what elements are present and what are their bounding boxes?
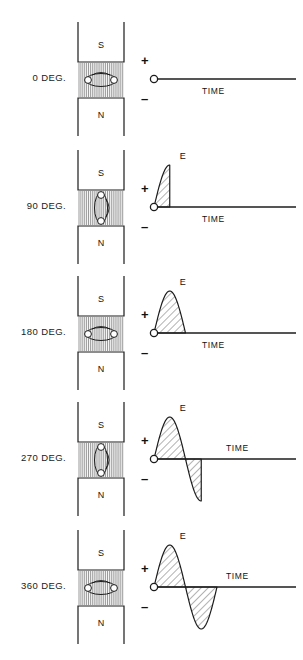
pole-south: S bbox=[78, 22, 124, 62]
waveform-plot-180: +–TIMEE bbox=[140, 274, 300, 392]
origin-marker bbox=[150, 455, 157, 462]
waveform-plot-0: +–TIME bbox=[140, 20, 300, 138]
phase-row-90: 90 DEG.SN+–TIMEE bbox=[0, 148, 303, 268]
pole-south: S bbox=[78, 276, 124, 316]
polarity-plus: + bbox=[141, 307, 149, 322]
phase-row-0: 0 DEG.SN+–TIME bbox=[0, 20, 303, 140]
time-axis-label: TIME bbox=[202, 340, 225, 350]
polarity-plus: + bbox=[141, 433, 149, 448]
svg-text:N: N bbox=[98, 490, 105, 500]
waveform-plot-270: +–TIMEE bbox=[140, 400, 300, 518]
phase-row-270: 270 DEG.SN+–TIMEE bbox=[0, 400, 303, 520]
magnet-assembly-0: SN bbox=[70, 20, 132, 138]
magnet-assembly-360: SN bbox=[70, 528, 132, 646]
degree-label-0: 0 DEG. bbox=[0, 72, 66, 83]
svg-text:S: S bbox=[98, 168, 104, 178]
phase-row-360: 360 DEG.SN+–TIMEE bbox=[0, 528, 303, 648]
svg-text:S: S bbox=[98, 40, 104, 50]
armature-coil bbox=[85, 581, 118, 595]
svg-text:N: N bbox=[98, 238, 105, 248]
emf-label: E bbox=[180, 403, 186, 413]
waveform-negative-lobe bbox=[186, 587, 218, 629]
magnet-assembly-90: SN bbox=[70, 148, 132, 266]
armature-coil bbox=[85, 73, 118, 87]
degree-label-360: 360 DEG. bbox=[0, 580, 66, 591]
magnet-assembly-270: SN bbox=[70, 400, 132, 518]
svg-text:N: N bbox=[98, 364, 105, 374]
time-axis-label: TIME bbox=[226, 443, 249, 453]
svg-text:S: S bbox=[98, 548, 104, 558]
polarity-plus: + bbox=[141, 181, 149, 196]
polarity-minus: – bbox=[141, 471, 148, 486]
polarity-minus: – bbox=[141, 345, 148, 360]
origin-marker bbox=[150, 329, 157, 336]
armature-coil bbox=[85, 327, 118, 341]
pole-south: S bbox=[78, 530, 124, 570]
svg-text:N: N bbox=[98, 110, 105, 120]
svg-text:S: S bbox=[98, 420, 104, 430]
polarity-plus: + bbox=[141, 53, 149, 68]
emf-label: E bbox=[180, 151, 186, 161]
origin-marker bbox=[150, 75, 157, 82]
polarity-plus: + bbox=[141, 561, 149, 576]
waveform-plot-90: +–TIMEE bbox=[140, 148, 300, 266]
ac-generation-diagram: 0 DEG.SN+–TIME90 DEG.SN+–TIMEE180 DEG.SN… bbox=[0, 0, 303, 660]
waveform-negative-lobe bbox=[186, 459, 202, 501]
time-axis-label: TIME bbox=[226, 571, 249, 581]
pole-north: N bbox=[78, 98, 124, 136]
pole-south: S bbox=[78, 402, 124, 442]
time-axis-label: TIME bbox=[202, 214, 225, 224]
pole-north: N bbox=[78, 606, 124, 644]
emf-label: E bbox=[180, 531, 186, 541]
phase-row-180: 180 DEG.SN+–TIMEE bbox=[0, 274, 303, 394]
degree-label-180: 180 DEG. bbox=[0, 326, 66, 337]
magnet-assembly-180: SN bbox=[70, 274, 132, 392]
pole-north: N bbox=[78, 226, 124, 264]
waveform-positive-lobe bbox=[154, 417, 186, 459]
emf-label: E bbox=[180, 277, 186, 287]
degree-label-90: 90 DEG. bbox=[0, 200, 66, 211]
waveform-positive-lobe bbox=[154, 545, 186, 587]
waveform-positive-lobe bbox=[154, 165, 170, 207]
origin-marker bbox=[150, 583, 157, 590]
svg-text:S: S bbox=[98, 294, 104, 304]
waveform-plot-360: +–TIMEE bbox=[140, 528, 300, 646]
svg-text:N: N bbox=[98, 618, 105, 628]
time-axis-label: TIME bbox=[202, 86, 225, 96]
waveform-positive-lobe bbox=[154, 291, 186, 333]
pole-north: N bbox=[78, 478, 124, 516]
degree-label-270: 270 DEG. bbox=[0, 452, 66, 463]
polarity-minus: – bbox=[141, 91, 148, 106]
pole-north: N bbox=[78, 352, 124, 390]
pole-south: S bbox=[78, 150, 124, 190]
polarity-minus: – bbox=[141, 599, 148, 614]
polarity-minus: – bbox=[141, 219, 148, 234]
origin-marker bbox=[150, 203, 157, 210]
